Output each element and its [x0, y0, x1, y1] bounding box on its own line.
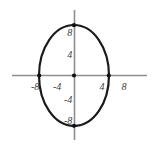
- y-tick-label-8: 8: [56, 28, 72, 38]
- vertex-left-marker: [37, 73, 41, 77]
- x-tick-label-neg8: -8: [27, 82, 43, 92]
- vertex-right-marker: [107, 73, 111, 77]
- coordinate-plane-svg: [0, 0, 158, 149]
- origin-point-marker: [72, 73, 76, 77]
- y-tick-label-neg4: -4: [54, 95, 72, 105]
- x-tick-label-4: 4: [95, 82, 109, 92]
- vertex-top-marker: [72, 23, 76, 27]
- x-tick-label-neg4: -4: [49, 82, 65, 92]
- y-tick-label-4: 4: [56, 50, 72, 60]
- x-tick-label-8: 8: [117, 82, 131, 92]
- ellipse-figure: 8 4 -4 -8 -8 -4 4 8: [0, 0, 158, 149]
- y-tick-label-neg8: -8: [54, 116, 72, 126]
- vertex-bottom-marker: [72, 124, 76, 128]
